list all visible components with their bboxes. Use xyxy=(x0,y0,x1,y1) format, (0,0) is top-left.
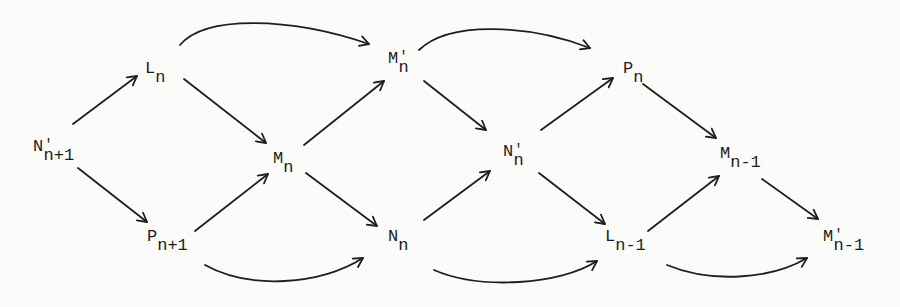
node-L-n: Ln xyxy=(145,60,165,77)
curved-arrow-L_n-to-Mp_n xyxy=(180,23,369,45)
node-subscript: n xyxy=(633,68,643,87)
curved-arrow-Mp_n-to-P_n xyxy=(419,29,590,50)
arrow-M_n-to-N_n xyxy=(306,173,377,226)
node-M-prime-n: M'n xyxy=(388,50,409,67)
node-base: N xyxy=(503,143,513,160)
arrow-M_n-to-Mp_n xyxy=(304,81,384,145)
arrow-Mp_n-to-Np_n xyxy=(424,81,486,130)
node-subscript: n+1 xyxy=(44,146,75,165)
node-M-n-minus-1: Mn-1 xyxy=(720,145,761,162)
arrow-P_n+1-to-M_n xyxy=(195,174,268,231)
node-base: M xyxy=(823,228,833,245)
node-base: M xyxy=(273,150,283,167)
node-subscript: n xyxy=(155,68,165,87)
node-subscript: n-1 xyxy=(730,153,761,172)
node-base: N xyxy=(33,138,43,155)
node-base: P xyxy=(623,60,633,77)
node-base: M xyxy=(388,50,398,67)
arrow-L_n-1-to-M_n-1 xyxy=(648,176,719,231)
node-base: P xyxy=(147,228,157,245)
curved-arrow-L_n-1-to-Mp_n-1 xyxy=(667,258,807,277)
node-base: L xyxy=(145,60,155,77)
node-subscript: n xyxy=(283,158,293,177)
curved-arrow-P_n+1-to-N_n xyxy=(205,258,363,281)
node-L-n-minus-1: Ln-1 xyxy=(605,228,646,245)
node-subscript: n+1 xyxy=(157,236,188,255)
node-N-n: Nn xyxy=(388,228,408,245)
arrow-Np_n-to-P_n xyxy=(541,78,613,130)
node-N-prime-n-plus-1: N'n+1 xyxy=(33,138,74,155)
arrow-L_n-to-M_n xyxy=(184,79,266,143)
node-N-prime-n: N'n xyxy=(503,143,524,160)
node-M-prime-n-minus-1: M'n-1 xyxy=(823,228,864,245)
arrow-M_n-1-to-Mp_n-1 xyxy=(762,179,818,219)
node-subscript: n xyxy=(399,58,409,77)
node-base: L xyxy=(605,228,615,245)
diagram-canvas xyxy=(0,0,900,307)
curved-arrow-N_n-to-L_n-1 xyxy=(434,261,597,282)
node-P-n: Pn xyxy=(623,60,643,77)
node-base: N xyxy=(388,228,398,245)
node-subscript: n-1 xyxy=(834,236,865,255)
node-base: M xyxy=(720,145,730,162)
node-subscript: n-1 xyxy=(615,236,646,255)
node-M-n: Mn xyxy=(273,150,293,167)
arrow-Np_n+1-to-L_n xyxy=(73,76,137,124)
arrow-Np_n+1-to-P_n+1 xyxy=(78,168,147,222)
node-P-n-plus-1: Pn+1 xyxy=(147,228,188,245)
arrow-N_n-to-Np_n xyxy=(424,171,490,220)
node-subscript: n xyxy=(514,151,524,170)
arrow-P_n-to-M_n-1 xyxy=(643,84,716,138)
node-subscript: n xyxy=(398,236,408,255)
arrow-Np_n-to-L_n-1 xyxy=(539,173,605,224)
